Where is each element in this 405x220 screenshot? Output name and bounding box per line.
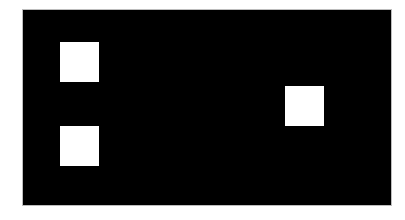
white-square-top-left bbox=[60, 42, 99, 82]
black-panel bbox=[23, 10, 391, 205]
white-square-bottom-left bbox=[60, 126, 99, 166]
white-square-right bbox=[285, 86, 324, 126]
